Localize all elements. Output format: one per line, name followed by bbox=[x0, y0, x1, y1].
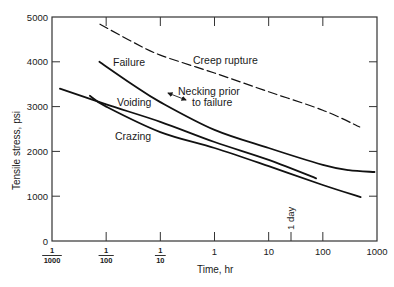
label-creep-rupture: Creep rupture bbox=[193, 54, 258, 66]
label-failure: Failure bbox=[113, 56, 145, 68]
x-tick-numerator: 1 bbox=[158, 246, 162, 255]
y-tick-label: 0 bbox=[43, 236, 48, 247]
x-tick-numerator: 1 bbox=[50, 246, 54, 255]
stress-time-chart: 010002000300040005000 110001100110110100… bbox=[0, 0, 394, 287]
y-axis-title: Tensile stress, psi bbox=[11, 111, 22, 190]
y-tick-label: 5000 bbox=[27, 12, 48, 23]
y-tick-label: 4000 bbox=[27, 56, 48, 67]
x-tick-denominator: 100 bbox=[100, 256, 113, 265]
y-tick-label: 3000 bbox=[27, 101, 48, 112]
x-tick-numerator: 1 bbox=[104, 246, 108, 255]
series-creep-rupture bbox=[100, 24, 360, 127]
x-tick-denominator: 10 bbox=[156, 256, 164, 265]
y-tick-label: 2000 bbox=[27, 146, 48, 157]
y-tick-label: 1000 bbox=[27, 191, 48, 202]
label-necking-line2: to failure bbox=[192, 96, 232, 108]
label-voiding: Voiding bbox=[117, 96, 152, 108]
x-tick-denominator: 1000 bbox=[44, 256, 61, 265]
y-axis-ticks: 010002000300040005000 bbox=[27, 12, 377, 247]
label-crazing: Crazing bbox=[115, 130, 151, 142]
series-lines bbox=[60, 24, 375, 197]
x-tick-label: 1000 bbox=[366, 246, 387, 257]
x-axis-title: Time, hr bbox=[197, 264, 234, 275]
x-tick-label: 10 bbox=[263, 246, 274, 257]
x-tick-label: 1 bbox=[212, 246, 217, 257]
x-tick-label: 100 bbox=[315, 246, 331, 257]
label-one-day: 1 day bbox=[285, 207, 296, 230]
